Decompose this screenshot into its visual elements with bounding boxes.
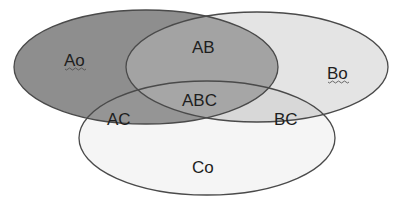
label-c-only: Co <box>192 158 214 177</box>
label-abc: ABC <box>182 91 217 110</box>
label-b-only: Bo <box>327 64 348 83</box>
label-ac: AC <box>107 110 131 129</box>
label-bc: BC <box>274 110 298 129</box>
label-ab: AB <box>192 38 215 57</box>
venn-diagram: Ao AB Bo ABC AC BC Co <box>0 0 404 207</box>
label-a-only: Ao <box>64 51 85 70</box>
